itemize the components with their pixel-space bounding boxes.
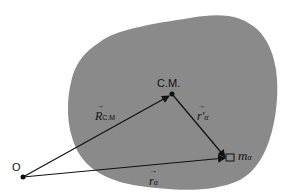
mass-element-label: mα	[238, 149, 252, 162]
R-cm-label: →RC.M	[95, 110, 115, 122]
r-alpha-label: →rα	[149, 175, 158, 187]
r-alpha-prime-label: →r′α	[197, 110, 209, 122]
diagram-canvas	[0, 0, 286, 195]
vector-arrow-icon: →	[96, 102, 104, 110]
center-of-mass-label: C.M.	[157, 78, 180, 89]
center-of-mass-point	[170, 92, 175, 97]
vector-arrow-icon: →	[197, 102, 205, 110]
origin-point	[21, 175, 26, 180]
vector-arrow-icon: →	[149, 167, 157, 175]
origin-label: O	[12, 162, 21, 173]
